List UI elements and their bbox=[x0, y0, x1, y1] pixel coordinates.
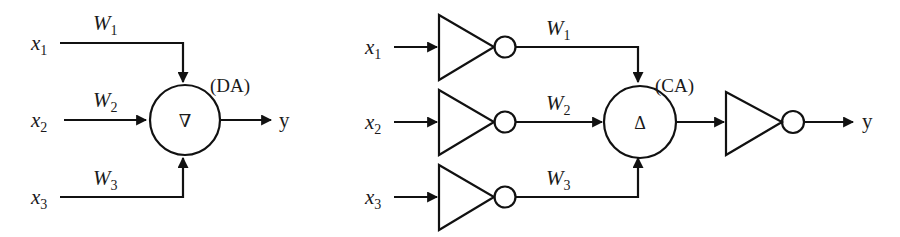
output-inverter-bubble bbox=[782, 111, 804, 133]
inverter-2 bbox=[439, 90, 494, 155]
input-label-x3: x3 bbox=[30, 185, 47, 212]
input-label-x3-right: x3 bbox=[364, 185, 381, 212]
weight-label-w2: W2 bbox=[93, 88, 118, 115]
right-diagram bbox=[394, 15, 853, 230]
inverter-3 bbox=[439, 165, 494, 230]
delta-symbol: Δ bbox=[634, 113, 646, 133]
right-labels: x1 x2 x3 W1 W2 W3 Δ (CA) y bbox=[364, 16, 873, 212]
weight-label-w3-right: W3 bbox=[546, 166, 571, 193]
inverter-bubble-1 bbox=[495, 37, 516, 58]
nabla-symbol: ∇ bbox=[179, 111, 192, 131]
inverter-bubble-3 bbox=[495, 187, 516, 208]
input-label-x1-right: x1 bbox=[364, 35, 381, 62]
weight-line-3 bbox=[516, 158, 638, 197]
weight-label-w1: W1 bbox=[93, 11, 118, 38]
weight-label-w2-right: W2 bbox=[546, 91, 571, 118]
output-label-y: y bbox=[279, 108, 290, 132]
input-line-1 bbox=[60, 43, 183, 82]
left-diagram bbox=[60, 43, 271, 197]
input-label-x2-right: x2 bbox=[364, 110, 381, 137]
output-inverter bbox=[726, 92, 782, 155]
output-label-y-right: y bbox=[862, 109, 873, 133]
node-label-ca: (CA) bbox=[655, 75, 694, 97]
input-line-3 bbox=[60, 158, 183, 197]
neuron-diagram: x1 x2 x3 W1 W2 W3 ∇ (DA) y bbox=[0, 0, 900, 237]
inverter-bubble-2 bbox=[495, 112, 516, 133]
node-label-da: (DA) bbox=[210, 75, 250, 97]
input-label-x2: x2 bbox=[30, 108, 47, 135]
inverter-1 bbox=[439, 15, 494, 80]
input-label-x1: x1 bbox=[30, 31, 47, 58]
weight-label-w3: W3 bbox=[93, 166, 118, 193]
left-labels: x1 x2 x3 W1 W2 W3 ∇ (DA) y bbox=[30, 11, 290, 212]
weight-label-w1-right: W1 bbox=[546, 16, 571, 43]
weight-line-1 bbox=[516, 47, 638, 82]
